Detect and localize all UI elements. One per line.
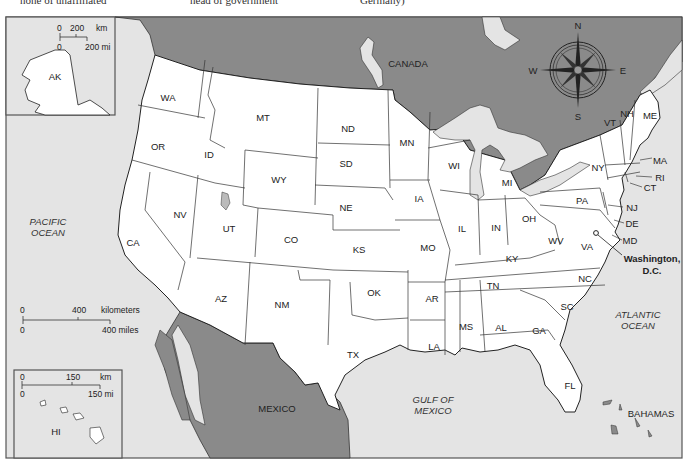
svg-text:0: 0 [20,305,25,315]
state-label-nh: NH [620,108,634,119]
svg-text:km: km [96,23,107,33]
alaska-inset: AK 0 200 km 0 200 mi [6,17,115,115]
state-label-ut: UT [223,223,236,234]
state-label-ct: CT [644,182,657,193]
state-label-md: MD [623,235,638,246]
hawaii-inset: HI 0 150 km 0 150 mi [14,370,122,458]
state-label-vt: VT [604,117,616,128]
state-label-mn: MN [400,137,415,148]
state-label-co: CO [284,234,298,245]
state-label-tx: TX [347,349,360,360]
state-label-sd: SD [339,158,352,169]
svg-text:E: E [620,65,626,76]
state-label-nm: NM [275,299,290,310]
state-label-va: VA [581,241,594,252]
state-label-wy: WY [271,174,287,185]
state-label-ca: CA [126,237,140,248]
capital-marker-icon [594,231,599,236]
svg-text:0: 0 [57,42,62,52]
state-label-nd: ND [341,123,355,134]
svg-text:400 miles: 400 miles [102,325,138,335]
ocean-label-atlantic-1: ATLANTIC [614,309,660,320]
state-label-ne: NE [339,202,352,213]
svg-text:0: 0 [57,23,62,33]
water-label-gulf-1: GULF OF [413,394,455,405]
state-label-wa: WA [161,92,177,103]
state-label-in: IN [491,222,501,233]
state-label-ar: AR [425,293,438,304]
state-label-ia: IA [415,193,425,204]
state-label-nj: NJ [626,202,638,213]
state-label-or: OR [151,141,165,152]
state-label-wv: WV [548,235,564,246]
state-label-ms: MS [459,321,473,332]
state-label-me: ME [643,110,657,121]
svg-text:200: 200 [70,23,84,33]
state-label-nv: NV [173,209,187,220]
ocean-label-pacific-2: OCEAN [31,227,65,238]
country-label-mexico: MEXICO [258,403,295,414]
svg-text:kilometers: kilometers [101,305,140,315]
state-label-ga: GA [532,325,546,336]
state-label-nc: NC [578,273,592,284]
state-label-ak: AK [49,71,62,82]
state-label-ks: KS [353,244,366,255]
svg-text:0: 0 [20,389,25,399]
state-label-ny: NY [591,162,605,173]
svg-text:150 mi: 150 mi [88,389,114,399]
state-label-al: AL [495,322,507,333]
capital-label-line2: D.C. [643,265,662,276]
state-label-sc: SC [560,301,573,312]
ocean-label-atlantic-2: OCEAN [621,320,655,331]
state-label-mo: MO [420,242,435,253]
svg-text:N: N [575,20,582,31]
svg-text:400: 400 [72,305,86,315]
state-label-mi: MI [502,177,513,188]
state-label-de: DE [625,218,638,229]
state-label-ky: KY [506,253,519,264]
state-label-pa: PA [576,195,589,206]
svg-text:W: W [529,65,538,76]
svg-text:200 mi: 200 mi [85,42,111,52]
state-label-ma: MA [653,155,668,166]
state-label-ri: RI [655,172,665,183]
state-label-mt: MT [256,112,270,123]
ocean-label-pacific-1: PACIFIC [30,216,67,227]
state-label-la: LA [428,341,440,352]
water-label-gulf-2: MEXICO [414,405,452,416]
state-label-tn: TN [487,280,500,291]
svg-text:km: km [100,372,111,382]
svg-text:0: 0 [20,372,25,382]
state-label-oh: OH [522,213,536,224]
svg-text:150: 150 [66,372,80,382]
capital-label-line1: Washington, [624,253,681,264]
state-label-wi: WI [448,160,460,171]
svg-text:0: 0 [20,325,25,335]
us-map: AK 0 200 km 0 200 mi HI 0 150 km 0 [0,0,690,460]
state-label-il: IL [458,223,466,234]
state-label-fl: FL [564,380,575,391]
country-label-bahamas: BAHAMAS [628,408,674,419]
svg-text:S: S [575,111,581,122]
state-label-ok: OK [367,287,381,298]
state-label-hi: HI [51,426,61,437]
state-label-az: AZ [215,293,227,304]
country-label-canada: CANADA [388,58,428,69]
state-label-id: ID [204,149,214,160]
